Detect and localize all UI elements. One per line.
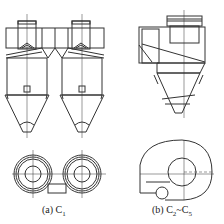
panel-b-elevation [139,10,205,118]
caption-b: (b) C2~C5 [152,204,192,218]
cyclone-drawings [0,0,224,224]
caption-b-text: (b) C [152,204,173,215]
caption-b-mid: ~C [176,204,188,215]
panel-b-plan [140,140,214,200]
panel-a-plan [12,150,106,198]
caption-a-text: (a) C [42,204,62,215]
caption-a-sub: 1 [62,210,66,218]
diagram-canvas: (a) C1 (b) C2~C5 [0,0,224,224]
caption-b-sub2: 5 [188,210,192,218]
panel-a-elevation [5,14,104,138]
caption-a: (a) C1 [42,204,66,218]
